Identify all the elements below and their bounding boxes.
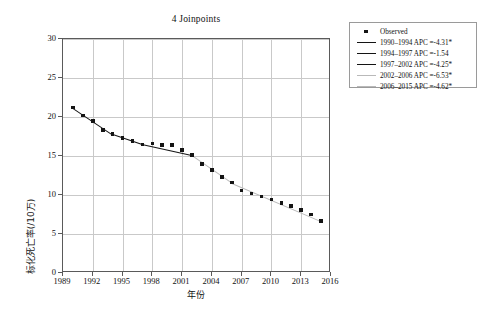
y-tick-mark: [58, 155, 62, 156]
y-tick-label: 15: [30, 150, 56, 160]
x-tick-mark: [122, 272, 123, 276]
legend-label-segment: 1990–1994 APC =-4.31*: [377, 39, 452, 47]
x-tick-mark: [300, 272, 301, 276]
legend-item-segment: 1990–1994 APC =-4.31*: [355, 37, 472, 48]
legend-label-segment: 1994–1997 APC =-1.54: [377, 50, 449, 58]
data-point: [220, 175, 224, 179]
data-point: [151, 142, 155, 146]
y-tick-mark: [58, 194, 62, 195]
legend-label-observed: Observed: [377, 28, 408, 36]
y-tick-label: 10: [30, 189, 56, 199]
data-point: [101, 128, 105, 132]
legend-line-icon: [355, 64, 377, 65]
data-point: [289, 204, 293, 208]
legend-item-segment: 1997–2002 APC =-4.25*: [355, 59, 472, 70]
data-point: [299, 208, 303, 212]
y-tick-mark: [58, 77, 62, 78]
x-tick-mark: [270, 272, 271, 276]
legend-segment-rows: 1990–1994 APC =-4.31*1994–1997 APC =-1.5…: [355, 37, 472, 92]
legend-line-icon: [355, 42, 377, 43]
data-point: [230, 181, 234, 185]
legend-label-segment: 2002–2006 APC =-6.53*: [377, 72, 452, 80]
fitted-segment: [142, 144, 192, 156]
data-point: [91, 119, 95, 123]
gridline-vertical: [271, 39, 272, 271]
gridline-vertical: [182, 39, 183, 271]
x-tick-mark: [330, 272, 331, 276]
y-tick-label: 0: [30, 267, 56, 277]
data-point: [260, 195, 264, 199]
observed-marker-icon: [355, 30, 377, 33]
gridline-vertical: [123, 39, 124, 271]
chart-title: 4 Joinpoints: [62, 14, 330, 24]
legend-line-icon: [355, 53, 377, 54]
chart-canvas: 4 Joinpoints 标化死亡率(/10万) 302520151050 19…: [0, 0, 482, 319]
y-tick-label: 30: [30, 33, 56, 43]
legend-line-icon: [355, 75, 377, 76]
data-point: [200, 162, 204, 166]
data-point: [180, 148, 184, 152]
data-point: [131, 139, 135, 143]
x-tick-mark: [181, 272, 182, 276]
gridline-vertical: [242, 39, 243, 271]
legend-label-segment: 1997–2002 APC =-4.25*: [377, 61, 452, 69]
gridline-horizontal: [63, 234, 329, 235]
gridline-horizontal: [63, 117, 329, 118]
x-tick-mark: [92, 272, 93, 276]
data-point: [111, 132, 115, 136]
legend-item-segment: 1994–1997 APC =-1.54: [355, 48, 472, 59]
legend-line-icon: [355, 86, 377, 87]
data-point: [121, 136, 125, 140]
plot-area: [62, 38, 330, 272]
gridline-vertical: [93, 39, 94, 271]
fitted-segment: [231, 183, 321, 222]
data-point: [160, 143, 164, 147]
fitted-segment: [112, 134, 142, 145]
y-tick-label: 20: [30, 111, 56, 121]
data-point: [141, 143, 145, 147]
x-tick-mark: [151, 272, 152, 276]
y-tick-label: 5: [30, 228, 56, 238]
data-point: [81, 114, 85, 118]
gridline-vertical: [212, 39, 213, 271]
y-tick-label: 25: [30, 72, 56, 82]
plot-inner: [63, 39, 329, 271]
gridline-vertical: [152, 39, 153, 271]
y-tick-mark: [58, 116, 62, 117]
data-point: [319, 219, 323, 223]
x-tick-mark: [62, 272, 63, 276]
data-point: [240, 189, 244, 193]
gridline-horizontal: [63, 195, 329, 196]
gridline-horizontal: [63, 39, 329, 40]
data-point: [71, 106, 75, 110]
legend: Observed 1990–1994 APC =-4.31*1994–1997 …: [349, 22, 477, 88]
legend-label-segment: 2006–2015 APC =-4.62*: [377, 83, 452, 91]
legend-item-segment: 2006–2015 APC =-4.62*: [355, 81, 472, 92]
data-point: [309, 213, 313, 217]
legend-item-observed: Observed: [355, 26, 472, 37]
y-tick-mark: [58, 233, 62, 234]
x-tick-mark: [241, 272, 242, 276]
x-tick-mark: [211, 272, 212, 276]
x-tick-label: 2016: [313, 276, 347, 286]
y-tick-mark: [58, 38, 62, 39]
data-point: [170, 143, 174, 147]
legend-item-segment: 2002–2006 APC =-6.53*: [355, 70, 472, 81]
data-point: [270, 198, 274, 202]
gridline-horizontal: [63, 78, 329, 79]
data-point: [190, 153, 194, 157]
data-point: [250, 192, 254, 196]
data-point: [210, 168, 214, 172]
y-axis-label-wrapper: 标化死亡率(/10万): [14, 90, 30, 210]
x-axis-label: 年份: [62, 288, 330, 301]
data-point: [280, 201, 284, 205]
gridline-vertical: [301, 39, 302, 271]
